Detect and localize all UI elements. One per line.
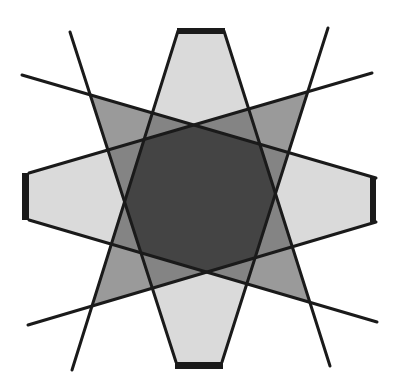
left-bar (22, 173, 29, 220)
bottom-bar (175, 362, 223, 369)
right-bar (370, 178, 376, 222)
star-diagram (0, 0, 398, 391)
shapes-layer (29, 31, 376, 362)
top-bar (177, 28, 225, 34)
